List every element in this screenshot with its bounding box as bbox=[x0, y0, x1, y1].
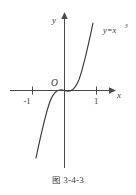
figure-container: y x O -1 1 y=x 3 图3-4-3 bbox=[0, 0, 136, 195]
plot-svg: y x O -1 1 y=x 3 bbox=[0, 0, 136, 172]
x-tick-label-pos1: 1 bbox=[94, 96, 98, 106]
y-axis-label: y bbox=[51, 15, 56, 25]
y-axis-arrow-icon bbox=[61, 12, 67, 19]
curve-equation-label: y=x 3 bbox=[102, 23, 128, 35]
x-axis-arrow-icon bbox=[109, 87, 116, 93]
curve-equation-base: y=x bbox=[102, 25, 117, 35]
origin-label: O bbox=[51, 78, 58, 88]
figure-caption-prefix: 图 bbox=[52, 175, 61, 185]
figure-caption: 图3-4-3 bbox=[0, 173, 136, 185]
curve-equation-exponent: 3 bbox=[124, 23, 128, 29]
figure-caption-number: 3-4-3 bbox=[63, 175, 84, 185]
x-tick-label-neg1: -1 bbox=[23, 96, 30, 106]
x-axis-label: x bbox=[116, 90, 121, 100]
cubic-function-plot: y x O -1 1 y=x 3 bbox=[0, 0, 136, 172]
